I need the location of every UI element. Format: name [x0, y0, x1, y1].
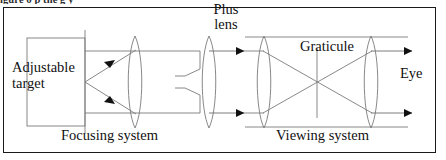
eye-lens-shape: [364, 36, 378, 128]
plus-lens-shape: [202, 36, 216, 128]
cone-arrowheads: [104, 60, 115, 104]
field-lens-shape: [257, 36, 271, 128]
label-graticule: Graticule: [300, 39, 354, 54]
objective-lens-shape: [128, 36, 142, 128]
label-viewing-system: Viewing system: [276, 128, 369, 143]
housing-step-lower: [185, 88, 200, 113]
housing-step-upper: [185, 51, 200, 76]
label-plus-lens-line1: Plus: [196, 2, 256, 17]
label-adjustable-target-line2: target: [12, 75, 90, 91]
label-adjustable-target-line1: Adjustable: [12, 59, 90, 75]
label-plus-lens-line2: lens: [196, 17, 256, 32]
figure-root: igure 6 p the g y: [0, 0, 446, 160]
label-adjustable-target: Adjustable target: [12, 59, 90, 91]
label-focusing-system: Focusing system: [61, 128, 158, 143]
label-plus-lens: Plus lens: [196, 2, 256, 32]
label-eye: Eye: [400, 66, 423, 81]
